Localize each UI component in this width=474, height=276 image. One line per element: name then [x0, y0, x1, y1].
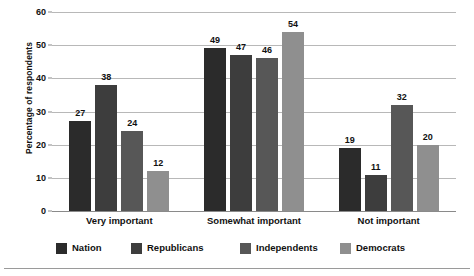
bar: 49	[204, 48, 226, 211]
legend-item[interactable]: Democrats	[340, 240, 405, 256]
legend-label: Nation	[72, 243, 102, 253]
bar-value-label: 12	[153, 158, 163, 168]
bar: 46	[256, 58, 278, 211]
bar: 20	[417, 145, 439, 211]
bar-value-label: 32	[397, 92, 407, 102]
bar-value-label: 46	[262, 45, 272, 55]
bar-value-label: 27	[75, 108, 85, 118]
bar: 47	[230, 55, 252, 211]
bar-value-label: 11	[371, 162, 381, 172]
x-axis-label: Somewhat important	[207, 215, 301, 226]
bar: 19	[339, 148, 361, 211]
y-tick-label: 60	[36, 7, 46, 17]
chart-legend: NationRepublicansIndependentsDemocrats	[0, 240, 474, 256]
bar-chart-figure: Percentage of respondents 0102030405060 …	[0, 0, 474, 276]
x-axis-label: Not important	[358, 215, 420, 226]
y-tick-label: 40	[36, 73, 46, 83]
bars-layer: 273824124947465419113220	[52, 12, 456, 211]
bar: 11	[365, 175, 387, 211]
legend-label: Independents	[256, 243, 318, 253]
bar: 54	[282, 32, 304, 211]
bar: 27	[69, 121, 91, 211]
y-tick-label: 50	[36, 40, 46, 50]
legend-swatch-icon	[56, 243, 67, 254]
legend-swatch-icon	[240, 243, 251, 254]
legend-swatch-icon	[340, 243, 351, 254]
bar-value-label: 47	[236, 42, 246, 52]
bar-value-label: 19	[345, 135, 355, 145]
plot-area: 0102030405060 273824124947465419113220	[52, 12, 456, 211]
bar-value-label: 49	[210, 35, 220, 45]
bar: 38	[95, 85, 117, 211]
legend-item[interactable]: Nation	[56, 240, 102, 256]
bar: 24	[121, 131, 143, 211]
bar-value-label: 20	[423, 132, 433, 142]
legend-item[interactable]: Independents	[240, 240, 318, 256]
y-tick-label: 10	[36, 173, 46, 183]
footer-divider	[4, 268, 470, 269]
y-tick-label: 30	[36, 107, 46, 117]
bar-value-label: 54	[288, 19, 298, 29]
bar: 12	[147, 171, 169, 211]
y-tick-label: 20	[36, 140, 46, 150]
legend-item[interactable]: Republicans	[131, 240, 204, 256]
bar-value-label: 38	[101, 72, 111, 82]
legend-label: Republicans	[147, 243, 204, 253]
bar-value-label: 24	[127, 118, 137, 128]
legend-label: Democrats	[356, 243, 405, 253]
y-tick-label: 0	[41, 206, 46, 216]
y-axis-title: Percentage of respondents	[24, 13, 34, 183]
axis-baseline	[52, 211, 456, 212]
legend-swatch-icon	[131, 243, 142, 254]
bar: 32	[391, 105, 413, 211]
x-axis-label: Very important	[86, 215, 153, 226]
